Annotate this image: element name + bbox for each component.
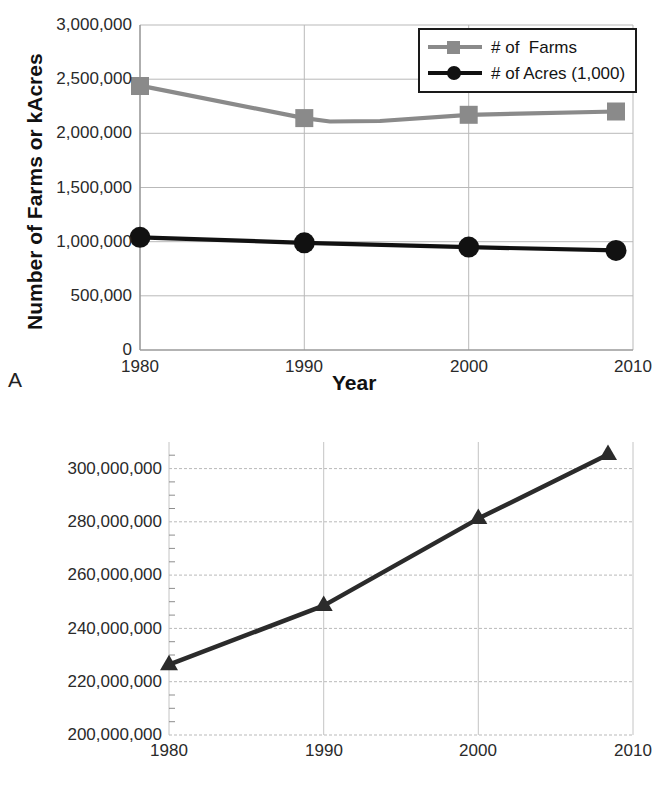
x-tick-label-b-1980: 1980 [139,742,199,759]
legend-label-farms: # of Farms [491,39,577,56]
legend-label-acres: # of Acres (1,000) [491,65,625,82]
y-tick-label-b-300000000: 300,000,000 [10,460,162,477]
x-tick-label-a-1990: 1990 [274,358,334,375]
legend-swatch-circle-icon [428,64,482,82]
legend-panel-a: # of Farms # of Acres (1,000) [418,28,637,93]
y-tick-label-b-220000000: 220,000,000 [10,673,162,690]
y-tick-label-a-2000000: 2,000,000 [0,124,132,141]
y-tick-label-a-500000: 500,000 [0,287,132,304]
legend-swatch-square-icon [428,38,482,56]
figure-two-panel-line-charts: 3,000,000 2,500,000 2,000,000 1,500,000 … [0,0,663,802]
panel-a-farms-acres-chart: 3,000,000 2,500,000 2,000,000 1,500,000 … [0,0,663,400]
y-tick-label-b-280000000: 280,000,000 [10,513,162,530]
x-tick-label-a-2000: 2000 [439,358,499,375]
panel-label-a: A [8,369,22,390]
y-tick-label-a-0: 0 [0,341,132,358]
plot-area-background-b [169,442,633,735]
x-tick-label-b-2010: 2010 [603,742,663,759]
x-tick-label-a-2010: 2010 [603,358,663,375]
y-tick-label-b-260000000: 260,000,000 [10,566,162,583]
legend-item-farms: # of Farms [428,34,625,60]
x-tick-label-a-1980: 1980 [110,358,170,375]
y-tick-label-a-1000000: 1,000,000 [0,233,132,250]
y-tick-label-b-200000000: 200,000,000 [10,726,162,743]
x-axis-title-a: Year [332,372,376,393]
legend-item-acres: # of Acres (1,000) [428,60,625,86]
x-tick-label-b-1990: 1990 [294,742,354,759]
y-tick-label-a-1500000: 1,500,000 [0,179,132,196]
y-tick-label-a-3000000: 3,000,000 [0,16,132,33]
y-axis-title-a: Number of Farms or kAcres [24,53,45,330]
y-tick-label-b-240000000: 240,000,000 [10,620,162,637]
panel-b-population-chart: 300,000,000 280,000,000 260,000,000 240,… [0,400,663,802]
x-tick-label-b-2000: 2000 [448,742,508,759]
y-tick-label-a-2500000: 2,500,000 [0,70,132,87]
